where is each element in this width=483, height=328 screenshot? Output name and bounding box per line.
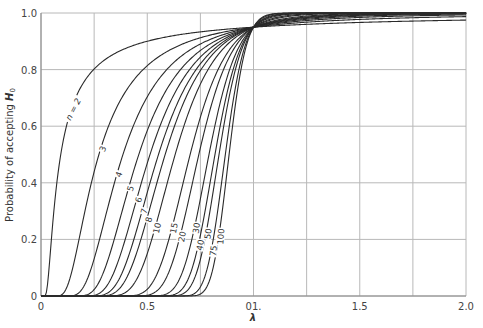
curve-labels: n = 234567810152030405075100 xyxy=(62,95,226,258)
grid-lines xyxy=(41,13,466,296)
svg-text:6: 6 xyxy=(133,196,144,204)
y-tick-label: 0.2 xyxy=(21,234,37,245)
y-tick-label: 0.6 xyxy=(21,121,37,132)
curve-label: 30 xyxy=(190,221,202,235)
y-axis-label: Probability of accepting H0 xyxy=(4,88,17,222)
oc-curve-chart: n = 234567810152030405075100 00.501.1.52… xyxy=(0,0,483,328)
svg-text:50: 50 xyxy=(202,228,213,240)
curve-label: 75 xyxy=(207,244,219,258)
svg-text:40: 40 xyxy=(194,239,206,251)
x-axis-label: λ xyxy=(249,312,256,323)
y-tick-label: 1.0 xyxy=(21,8,37,19)
x-tick-label: 01. xyxy=(246,301,262,312)
curve-label: 6 xyxy=(133,195,145,205)
svg-text:10: 10 xyxy=(151,222,163,235)
curve-label: 7 xyxy=(138,206,150,216)
svg-text:100: 100 xyxy=(215,228,226,245)
curve-label: 4 xyxy=(113,169,125,179)
y-tick-label: 0.4 xyxy=(21,178,37,189)
curve-label: 10 xyxy=(151,221,164,235)
curve-label: n = 2 xyxy=(62,95,84,124)
y-tick-label: 0 xyxy=(31,291,37,302)
x-tick-label: 0 xyxy=(38,301,44,312)
curve-label: 50 xyxy=(202,227,214,241)
x-tick-label: 2.0 xyxy=(458,301,474,312)
curve-label: 40 xyxy=(194,238,206,252)
x-tick-label: 1.5 xyxy=(352,301,368,312)
curve-label: 20 xyxy=(176,230,188,244)
svg-text:20: 20 xyxy=(176,230,188,243)
axis-ticks: 00.501.1.52.000.20.40.60.81.0 xyxy=(21,8,474,312)
curve-label: 5 xyxy=(125,183,137,193)
svg-text:75: 75 xyxy=(207,245,218,257)
svg-text:30: 30 xyxy=(191,222,203,234)
curve-label: 100 xyxy=(215,227,226,245)
curve-label: 3 xyxy=(97,144,109,154)
svg-text:n = 2: n = 2 xyxy=(63,97,83,122)
y-tick-label: 0.8 xyxy=(21,65,37,76)
svg-text:7: 7 xyxy=(139,207,150,215)
x-tick-label: 0.5 xyxy=(139,301,155,312)
